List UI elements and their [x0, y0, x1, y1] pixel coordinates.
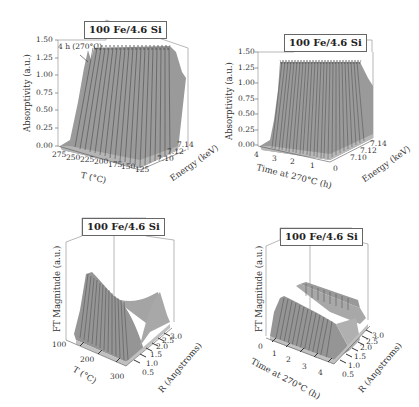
- x-tick: 0: [333, 164, 338, 173]
- y-tick: 1.25: [238, 63, 255, 72]
- x-tick: 1: [310, 161, 315, 170]
- y-tick: 1.50: [238, 47, 255, 56]
- y-tick: 0.00: [238, 140, 255, 149]
- x-tick: 250: [66, 153, 80, 162]
- panel-title: 100 Fe/4.6 Si: [280, 228, 363, 246]
- x-tick: 275: [52, 150, 66, 159]
- z-tick: 3.0: [372, 331, 384, 340]
- x-tick: 3: [272, 154, 277, 163]
- x-tick: 125: [135, 165, 149, 174]
- x-tick: 1: [272, 349, 277, 358]
- y-tick: 1.00: [238, 78, 255, 87]
- x-tick: 0: [258, 342, 263, 351]
- panel-ft-vs-temperature: 100 Fe/4.6 Si FT Magnitude (a.u.) 100 20…: [0, 200, 210, 407]
- x-tick: 225: [80, 155, 94, 164]
- y-tick: 0.25: [36, 123, 53, 132]
- z-tick: 1.0: [348, 361, 360, 370]
- y-axis-label: FT Magnitude (a.u.): [52, 246, 62, 332]
- z-tick: 7.14: [177, 140, 194, 149]
- x-tick: 200: [94, 157, 108, 166]
- z-tick: 7.14: [370, 139, 387, 148]
- y-tick: 0.75: [238, 94, 255, 103]
- z-tick: 0.5: [342, 370, 354, 379]
- x-tick: 200: [80, 355, 94, 364]
- x-tick: 100: [52, 340, 66, 349]
- x-tick: 2: [286, 355, 291, 364]
- panel-title: 100 Fe/4.6 Si: [82, 218, 165, 236]
- panel-ft-vs-time: 100 Fe/4.6 Si FT Magnitude (a.u.) 0 1 2 …: [210, 200, 419, 407]
- z-tick: 1.5: [150, 350, 162, 359]
- y-tick: 0.50: [238, 109, 255, 118]
- y-axis-label: Absorptivity (a.u.): [22, 54, 32, 132]
- z-tick: 1.0: [146, 359, 158, 368]
- panel-xanes-vs-time: 100 Fe/4.6 Si 1.50 1.25 1.00 0.75 0.50 0…: [210, 0, 419, 200]
- y-tick: 0.50: [36, 105, 53, 114]
- y-tick: 1.25: [36, 53, 53, 62]
- y-tick: 1.00: [36, 70, 53, 79]
- x-tick: 4: [254, 150, 259, 159]
- panel-title: 100 Fe/4.6 Si: [284, 34, 367, 52]
- y-axis-label: FT Magnitude (a.u.): [254, 246, 264, 332]
- y-tick: 0.25: [238, 125, 255, 134]
- y-tick: 0.75: [36, 88, 53, 97]
- annotation-4h-270c: 4 h (270°C): [58, 42, 102, 51]
- y-tick: 1.50: [36, 35, 53, 44]
- y-tick: 0.00: [36, 141, 53, 150]
- z-tick: 0.5: [142, 368, 154, 377]
- z-tick: 1.5: [354, 352, 366, 361]
- x-tick: 4: [318, 368, 323, 377]
- x-tick: 2: [290, 157, 295, 166]
- z-tick: 3.0: [170, 332, 182, 341]
- x-tick: 300: [110, 372, 124, 381]
- x-tick: 3: [302, 362, 307, 371]
- panel-title: 100 Fe/4.6 Si: [84, 21, 167, 39]
- y-axis-label: Absorptivity (a.u.): [224, 62, 234, 140]
- x-tick: 150: [121, 162, 135, 171]
- panel-xanes-vs-temperature: 100 Fe/4.6 Si 4 h (270°C) 1.50 1.25 1.00…: [0, 0, 210, 200]
